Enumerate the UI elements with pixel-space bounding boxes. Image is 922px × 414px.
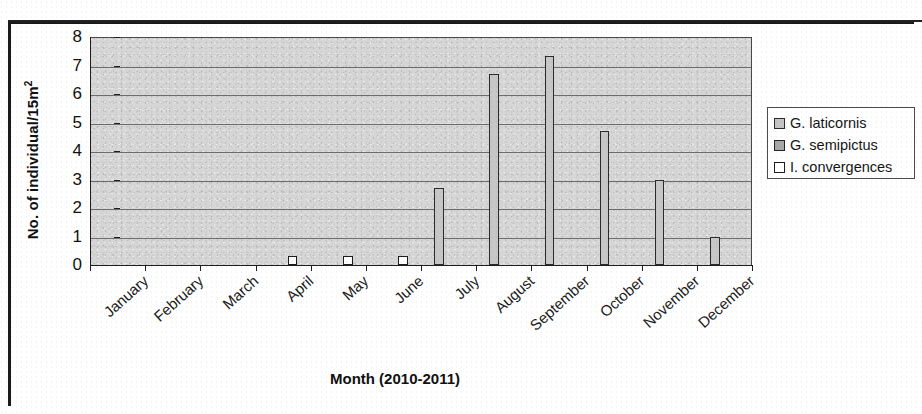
x-axis-title: Month (2010-2011) (0, 370, 790, 387)
x-tick-label-january: January (100, 272, 151, 320)
bar (288, 256, 298, 265)
x-tick-label-may: May (339, 272, 371, 304)
legend-swatch-icon (774, 118, 785, 129)
bar (398, 256, 408, 265)
y-tick-label: 6 (42, 84, 82, 104)
y-tick-label: 4 (42, 141, 82, 161)
x-tick-mark (90, 265, 91, 271)
x-tick-mark (145, 265, 146, 271)
x-tick-label-september: September (526, 272, 592, 334)
bar (489, 74, 499, 265)
y-tick-label: 8 (42, 27, 82, 47)
x-tick-label-october: October (596, 272, 647, 320)
x-tick-label-august: August (491, 272, 537, 316)
legend-label: G. laticornis (790, 115, 867, 131)
x-tick-label-july: July (451, 272, 482, 302)
legend-item: G. semipictus (774, 134, 909, 156)
x-tick-label-march: March (219, 272, 261, 313)
x-tick-label-february: February (150, 272, 206, 325)
x-tick-label-june: June (391, 272, 427, 306)
chart-legend: G. laticornisG. semipictusI. convergence… (767, 107, 915, 179)
y-tick-label: 5 (42, 113, 82, 133)
x-tick-label-december: December (695, 272, 758, 331)
y-axis-title-superscript: 2 (23, 81, 34, 87)
bar-chart: 012345678 No. of individual/15m2 January… (0, 0, 922, 414)
y-tick-label: 2 (42, 198, 82, 218)
x-tick-mark (531, 265, 532, 271)
y-tick-label: 7 (42, 56, 82, 76)
x-tick-mark (256, 265, 257, 271)
bars-layer (90, 37, 752, 265)
bar (710, 237, 720, 266)
x-tick-mark (200, 265, 201, 271)
x-tick-mark (476, 265, 477, 271)
y-tick-mark (114, 265, 120, 266)
y-tick-label: 3 (42, 170, 82, 190)
legend-item: I. convergences (774, 156, 909, 178)
bar (655, 180, 665, 266)
x-tick-mark (697, 265, 698, 271)
x-tick-mark (421, 265, 422, 271)
x-tick-mark (642, 265, 643, 271)
y-tick-label: 1 (42, 227, 82, 247)
legend-label: I. convergences (790, 159, 892, 175)
legend-swatch-icon (774, 162, 785, 173)
x-tick-mark (587, 265, 588, 271)
x-tick-label-april: April (283, 272, 317, 305)
bar (343, 256, 353, 265)
x-tick-mark (752, 265, 753, 271)
x-tick-mark (366, 265, 367, 271)
x-tick-label-november: November (640, 272, 703, 331)
bar (545, 56, 555, 265)
y-axis-title: No. of individual/15m2 (23, 35, 41, 285)
legend-swatch-icon (774, 140, 785, 151)
y-axis-title-text: No. of individual/15m (24, 86, 41, 239)
legend-label: G. semipictus (790, 137, 878, 153)
bar (434, 188, 444, 265)
bar (600, 131, 610, 265)
legend-item: G. laticornis (774, 112, 909, 134)
y-tick-label: 0 (42, 255, 82, 275)
x-tick-mark (311, 265, 312, 271)
